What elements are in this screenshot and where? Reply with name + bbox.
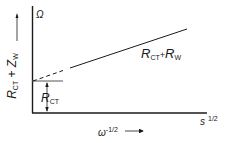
rct-arrow-head-up: [45, 82, 48, 87]
y-unit-label: Ω: [36, 10, 44, 20]
y-axis-label: RCT + ZW: [5, 53, 19, 99]
intercept-label-sub: CT: [50, 98, 59, 105]
line-label: RCT+RW: [141, 47, 181, 61]
y-label-z-sub: W: [12, 53, 19, 60]
x-axis-label: ω-1/2: [98, 126, 118, 138]
line-label-r1-sub: CT: [150, 54, 159, 61]
x-unit-label: s1/2: [200, 115, 218, 127]
x-unit-sup: 1/2: [208, 115, 218, 122]
intercept-label-r: R: [41, 91, 50, 105]
y-label-z: Z: [5, 60, 19, 67]
y-label-r-sub: CT: [12, 81, 19, 90]
y-label-plus: +: [5, 67, 19, 81]
line-label-r2: R: [165, 46, 174, 61]
y-label-r: R: [5, 90, 19, 99]
x-label-sup: -1/2: [106, 126, 118, 133]
x-label-omega: ω: [98, 127, 106, 138]
y-label-arrow-head: [16, 13, 19, 18]
intercept-label: RCT: [41, 92, 59, 105]
line-label-r1: R: [141, 46, 150, 61]
rct-arrow-head-down: [45, 107, 48, 112]
x-unit-s: s: [200, 116, 205, 127]
line-label-r2-sub: W: [174, 54, 181, 61]
extrapolation-dashed-line: [33, 71, 63, 82]
diagram-canvas: [0, 0, 230, 143]
